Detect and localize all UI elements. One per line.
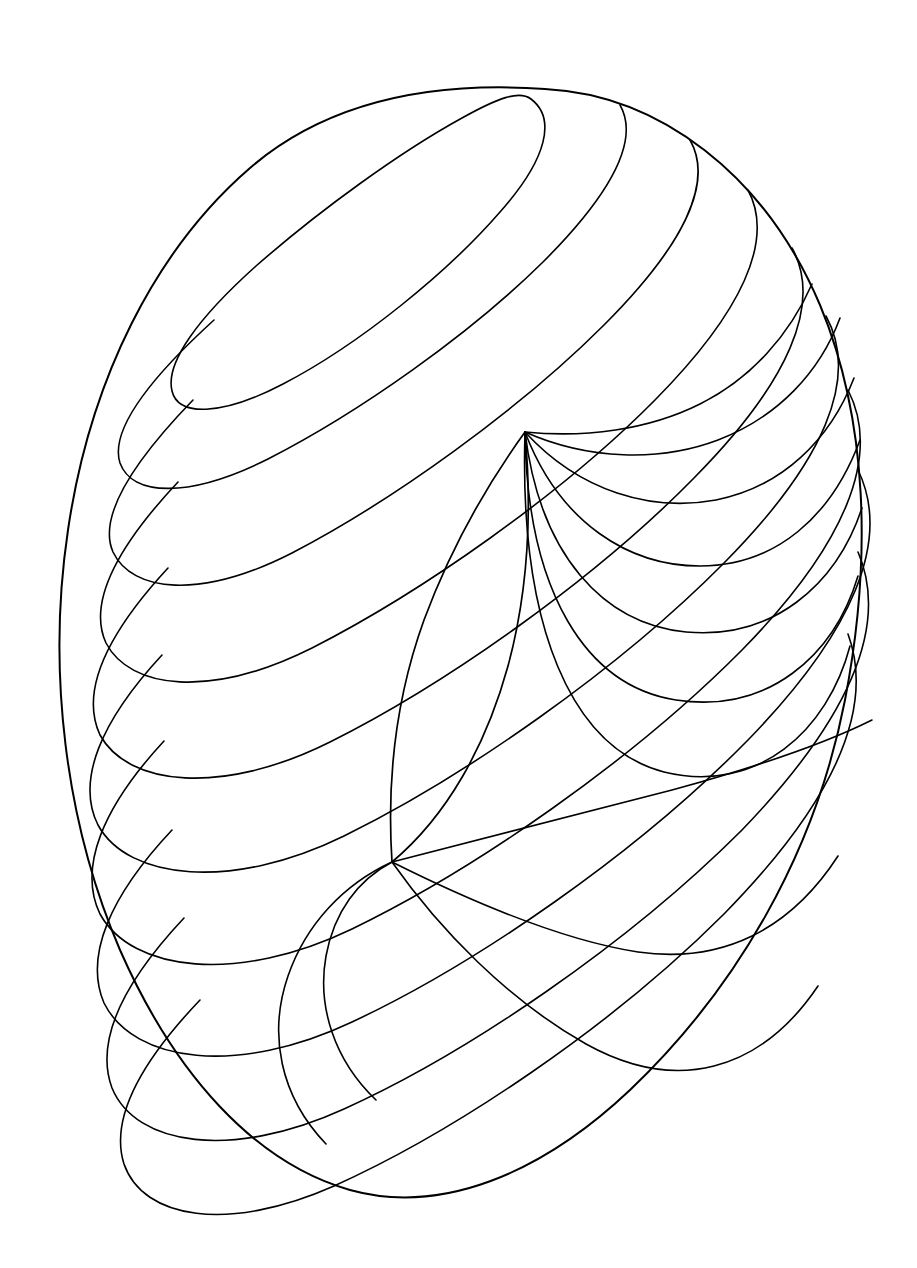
inner-hole-group	[390, 432, 528, 862]
latitude-band-l8	[107, 552, 868, 1140]
latitude-band-l5	[90, 316, 838, 872]
latitude-band-l2	[109, 140, 698, 585]
latitude-band-l1	[118, 105, 626, 488]
left-latitude-bands-group	[90, 105, 870, 1244]
innermost-latitude-loop-path	[171, 95, 545, 409]
innermost-loop-group	[171, 95, 545, 409]
front-left-curl-1	[324, 862, 392, 1100]
lower-fan-b1	[392, 720, 872, 862]
lower-cusp-fan-group	[392, 720, 872, 1175]
front-lower-arcs-group	[292, 862, 392, 1138]
inner-hole-right-edge	[392, 432, 528, 862]
illustration-canvas	[0, 0, 917, 1268]
latitude-band-l6	[92, 390, 860, 964]
inner-hole-left-edge	[390, 432, 525, 862]
latitude-band-l4	[93, 248, 803, 778]
latitude-band-r5	[525, 432, 862, 633]
latitude-band-r3	[525, 378, 854, 503]
latitude-band-r4	[525, 432, 860, 566]
torus-drawing	[0, 0, 917, 1268]
